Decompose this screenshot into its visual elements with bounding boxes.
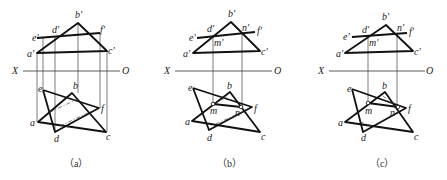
label-n: n (235, 107, 240, 118)
label-d: d (54, 133, 60, 144)
label-b: b (227, 80, 232, 91)
axis-x-label: X (11, 65, 19, 76)
label-d-prime: d' (52, 24, 60, 35)
label-f-prime: f' (409, 26, 415, 37)
projection-figure: X O a' b' c' d' e' f' a b c d e f （a） X … (0, 0, 447, 180)
label-d: d (207, 132, 213, 143)
label-a-prime: a' (336, 48, 344, 59)
panel-c: X O a' b' c' d' e' f' m' n' a b c d e f … (317, 11, 433, 169)
label-e-prime: e' (32, 32, 39, 43)
label-e-prime: e' (189, 32, 196, 43)
caption-b: （b） (217, 158, 242, 169)
label-c: c (261, 131, 266, 142)
label-e: e (188, 82, 193, 93)
label-e: e (347, 83, 352, 94)
label-f: f (101, 103, 105, 114)
label-c: c (414, 131, 419, 142)
label-d: d (361, 132, 367, 143)
label-m-prime: m' (214, 37, 224, 48)
label-m: m (210, 105, 217, 116)
axis-o-label: O (122, 65, 129, 76)
label-b: b (382, 80, 387, 91)
label-e: e (38, 83, 43, 94)
label-c-prime: c' (108, 45, 115, 56)
hidden-line (216, 110, 246, 124)
label-n-prime: n' (397, 22, 405, 33)
panel-b: X O a' b' c' d' e' f' m' n' a b c d e f … (163, 8, 281, 169)
label-m: m (365, 105, 372, 116)
label-f-prime: f' (100, 24, 106, 35)
label-a: a (30, 117, 35, 128)
label-d-prime: d' (362, 24, 370, 35)
label-b-prime: b' (382, 11, 390, 22)
label-a-prime: a' (27, 48, 35, 59)
axis-x-label: X (163, 65, 171, 76)
caption-a: （a） (64, 158, 88, 169)
label-d-prime: d' (207, 23, 215, 34)
label-a: a (338, 117, 343, 128)
label-c-prime: c' (414, 46, 421, 57)
label-b: b (73, 80, 78, 91)
point-n (396, 105, 400, 109)
label-a: a (185, 116, 190, 127)
label-b-prime: b' (75, 9, 83, 20)
axis-x-label: X (317, 65, 325, 76)
label-f: f (408, 103, 412, 114)
label-n-prime: n' (242, 22, 250, 33)
label-m-prime: m' (369, 37, 379, 48)
label-f-prime: f' (257, 25, 263, 36)
label-n: n (390, 107, 395, 118)
label-e-prime: e' (343, 31, 350, 42)
caption-c: （c） (370, 158, 394, 169)
axis-o-label: O (426, 65, 433, 76)
panel-a: X O a' b' c' d' e' f' a b c d e f （a） (11, 9, 129, 169)
axis-o-label: O (274, 65, 281, 76)
label-c: c (106, 131, 111, 142)
label-b-prime: b' (228, 8, 236, 19)
label-f: f (254, 103, 258, 114)
label-a-prime: a' (183, 48, 191, 59)
projection-lines (37, 23, 107, 132)
label-c-prime: c' (261, 46, 268, 57)
hidden-line (60, 111, 92, 126)
